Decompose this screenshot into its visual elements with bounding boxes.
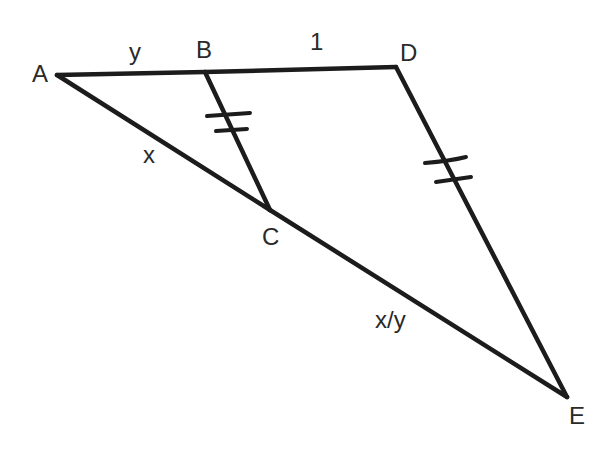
geometry-diagram: A B D C E y 1 x x/y [0, 0, 613, 457]
diagram-canvas: A B D C E y 1 x x/y [0, 0, 613, 457]
point-label-C: C [262, 223, 279, 250]
tick-mark-BC-1 [207, 113, 250, 116]
segment-DE [396, 67, 567, 397]
tick-mark-DE-2 [436, 177, 471, 182]
point-label-B: B [196, 36, 212, 63]
point-label-D: D [400, 39, 417, 66]
tick-mark-BC-2 [216, 129, 247, 131]
segment-label-BD: 1 [310, 28, 323, 55]
segment-label-AB: y [129, 38, 141, 65]
segment-BD [205, 67, 396, 72]
segment-label-CE: x/y [375, 306, 406, 333]
point-label-E: E [569, 402, 585, 429]
segment-label-AC: x [143, 141, 155, 168]
segment-AB [57, 72, 205, 75]
segment-CE [270, 210, 567, 397]
point-label-A: A [32, 60, 48, 87]
